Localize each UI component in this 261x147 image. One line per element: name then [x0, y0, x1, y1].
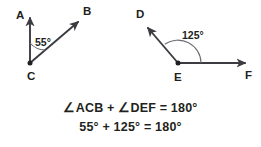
- angle-label-125: 125°: [182, 29, 204, 41]
- label-f: F: [245, 69, 252, 81]
- left-angle-diagram: A B C 55°: [16, 5, 91, 82]
- equation-line-2: 55° + 125° = 180°: [79, 120, 182, 134]
- label-a: A: [16, 9, 24, 21]
- geometry-canvas: A B C 55° D E F 125° ∠ACB + ∠DEF = 180° …: [0, 0, 261, 147]
- equation-block: ∠ACB + ∠DEF = 180° 55° + 125° = 180°: [63, 101, 197, 134]
- label-d: D: [136, 8, 144, 20]
- label-e: E: [174, 71, 182, 83]
- label-b: B: [83, 5, 91, 17]
- equation-line-1: ∠ACB + ∠DEF = 180°: [63, 101, 197, 115]
- vertex-point-c: [28, 61, 33, 66]
- ray-ed: [148, 28, 178, 63]
- geometry-figure: A B C 55° D E F 125° ∠ACB + ∠DEF = 180° …: [0, 0, 261, 147]
- vertex-point-e: [176, 61, 181, 66]
- label-c: C: [27, 70, 35, 82]
- angle-arc-def: [165, 40, 201, 63]
- angle-label-55: 55°: [35, 36, 51, 48]
- right-angle-diagram: D E F 125°: [136, 8, 252, 83]
